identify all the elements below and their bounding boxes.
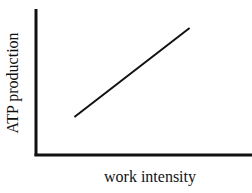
chart: ATP production work intensity bbox=[0, 0, 252, 193]
data-line bbox=[74, 28, 189, 117]
x-axis-label: work intensity bbox=[104, 168, 196, 186]
y-axis-label: ATP production bbox=[4, 32, 22, 133]
chart-plot bbox=[0, 0, 252, 193]
